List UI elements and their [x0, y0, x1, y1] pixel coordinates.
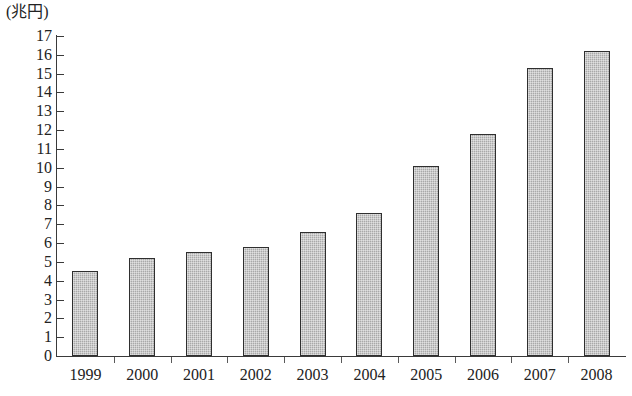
y-tick-label-text: 12 [20, 122, 52, 138]
bar [527, 68, 553, 356]
y-tick-label-text: 1 [20, 329, 52, 345]
y-axis-unit-label: (兆円) [6, 2, 49, 22]
x-tick-mark [455, 357, 456, 363]
x-tick-label: 2006 [455, 366, 512, 384]
y-tick-label: 9 [14, 179, 52, 195]
x-tick-label: 2005 [398, 366, 455, 384]
x-tick-mark [398, 357, 399, 363]
x-tick-mark [171, 357, 172, 363]
bar-chart: (兆円) 01234567891011121314151617 19992000… [0, 0, 632, 396]
bar [72, 271, 98, 356]
y-tick-label-text: 16 [20, 47, 52, 63]
x-tick-label: 2000 [114, 366, 171, 384]
y-tick-label-text: 13 [20, 103, 52, 119]
y-tick-label: 5 [14, 254, 52, 270]
y-tick-label: 0 [14, 348, 52, 364]
x-tick-label: 2007 [511, 366, 568, 384]
y-tick-label-text: 4 [20, 273, 52, 289]
x-tick-mark [568, 357, 569, 363]
y-tick-label: 8 [14, 197, 52, 213]
y-tick-label-text: 6 [20, 235, 52, 251]
y-tick-label-text: 10 [20, 160, 52, 176]
y-tick-label: 11 [14, 141, 52, 157]
x-tick-label: 1999 [57, 366, 114, 384]
y-tick-label: 14 [14, 84, 52, 100]
x-tick-label: 2008 [568, 366, 625, 384]
y-tick-label: 10 [14, 160, 52, 176]
y-tick-label: 13 [14, 103, 52, 119]
x-tick-mark [341, 357, 342, 363]
y-tick-label: 12 [14, 122, 52, 138]
y-tick-label-text: 2 [20, 310, 52, 326]
bar [470, 134, 496, 356]
y-tick-label: 17 [14, 28, 52, 44]
y-tick-label: 15 [14, 66, 52, 82]
y-tick-label-text: 9 [20, 179, 52, 195]
y-tick-label-text: 0 [20, 348, 52, 364]
y-tick-label-text: 7 [20, 216, 52, 232]
bar [413, 166, 439, 356]
y-tick-label-text: 11 [20, 141, 52, 157]
y-tick-label: 3 [14, 292, 52, 308]
y-tick-label: 2 [14, 310, 52, 326]
x-tick-mark [227, 357, 228, 363]
x-tick-label: 2003 [284, 366, 341, 384]
x-tick-mark [511, 357, 512, 363]
bar [584, 51, 610, 356]
y-tick-label-text: 5 [20, 254, 52, 270]
y-tick-label-text: 3 [20, 292, 52, 308]
x-tick-label: 2001 [171, 366, 228, 384]
y-tick-label: 16 [14, 47, 52, 63]
y-tick-label: 1 [14, 329, 52, 345]
x-tick-label: 2002 [227, 366, 284, 384]
bar [356, 213, 382, 356]
y-tick-label-text: 17 [20, 28, 52, 44]
y-tick-label-text: 8 [20, 197, 52, 213]
plot-area [57, 36, 625, 356]
bar [186, 252, 212, 356]
bar [300, 232, 326, 356]
y-tick-label: 4 [14, 273, 52, 289]
x-tick-label: 2004 [341, 366, 398, 384]
y-tick-label: 6 [14, 235, 52, 251]
y-tick-label: 7 [14, 216, 52, 232]
y-tick-label-text: 14 [20, 84, 52, 100]
x-tick-mark [114, 357, 115, 363]
y-tick-label-text: 15 [20, 66, 52, 82]
y-tick-mark [57, 356, 64, 357]
bar [243, 247, 269, 356]
bar [129, 258, 155, 356]
x-tick-mark [284, 357, 285, 363]
